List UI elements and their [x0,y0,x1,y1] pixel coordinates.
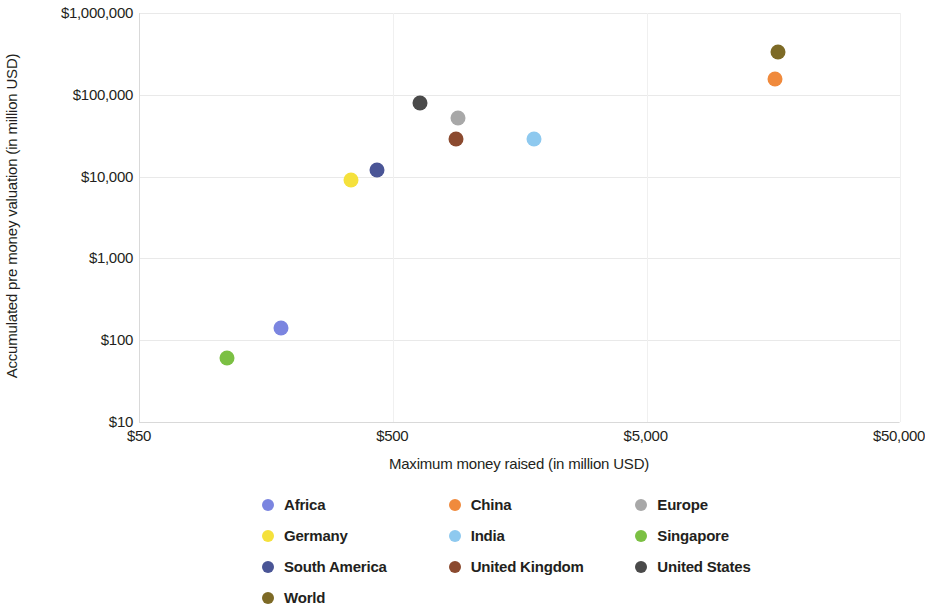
data-point[interactable] [273,321,288,336]
x-axis-tick-label: $5,000 [624,427,668,444]
legend-swatch-icon [449,499,461,511]
legend-swatch-icon [635,561,647,573]
chart-legend: AfricaChinaEuropeGermanyIndiaSingaporeSo… [262,489,822,604]
legend-row: South AmericaUnited KingdomUnited States [262,551,822,582]
y-axis-tick-label: $100,000 [9,86,139,103]
x-gridline [647,13,648,422]
legend-label: Europe [657,496,707,513]
y-gridline [140,13,900,14]
x-axis-tick-label: $50,000 [873,427,925,444]
legend-label: Germany [284,527,348,544]
legend-item-africa[interactable]: Africa [262,489,449,520]
legend-label: India [471,527,505,544]
y-axis-tick-label: $1,000,000 [9,4,139,21]
x-axis-tick-label: $50 [127,427,151,444]
data-point[interactable] [343,173,358,188]
y-axis-tick-label: $10 [9,413,139,430]
legend-swatch-icon [262,530,274,542]
data-point[interactable] [767,72,782,87]
y-gridline [140,95,900,96]
legend-item-india[interactable]: India [449,520,636,551]
x-gridline [900,13,901,422]
legend-label: China [471,496,512,513]
x-axis-title: Maximum money raised (in million USD) [139,455,899,472]
legend-item-united-kingdom[interactable]: United Kingdom [449,551,636,582]
legend-item-china[interactable]: China [449,489,636,520]
legend-label: United Kingdom [471,558,584,575]
legend-swatch-icon [635,499,647,511]
data-point[interactable] [448,131,463,146]
legend-item-south-america[interactable]: South America [262,551,449,582]
legend-label: South America [284,558,387,575]
legend-row: AfricaChinaEurope [262,489,822,520]
legend-label: Africa [284,496,325,513]
x-axis-line [139,422,899,423]
data-point[interactable] [413,95,428,110]
data-point[interactable] [369,163,384,178]
y-gridline [140,340,900,341]
legend-item-europe[interactable]: Europe [635,489,822,520]
legend-swatch-icon [449,561,461,573]
y-gridline [140,177,900,178]
legend-row: GermanyIndiaSingapore [262,520,822,551]
x-axis-tick-label: $500 [376,427,408,444]
legend-swatch-icon [449,530,461,542]
y-axis-tick-label: $100 [9,331,139,348]
legend-item-united-states[interactable]: United States [635,551,822,582]
legend-label: Singapore [657,527,729,544]
legend-swatch-icon [262,561,274,573]
y-axis-tick-label: $1,000 [9,249,139,266]
legend-label: World [284,589,325,604]
y-gridline [140,258,900,259]
legend-item-world[interactable]: World [262,582,459,604]
legend-swatch-icon [635,530,647,542]
data-point[interactable] [527,131,542,146]
legend-item-singapore[interactable]: Singapore [635,520,822,551]
x-gridline [393,13,394,422]
legend-row: World [262,582,822,604]
y-axis-tick-label: $10,000 [9,168,139,185]
legend-swatch-icon [262,592,274,604]
data-point[interactable] [451,111,466,126]
legend-item-germany[interactable]: Germany [262,520,449,551]
data-point[interactable] [771,45,786,60]
data-point[interactable] [219,351,234,366]
y-axis-title: Accumulated pre money valuation (in mill… [0,0,24,436]
legend-swatch-icon [262,499,274,511]
plot-area [139,13,899,422]
legend-label: United States [657,558,750,575]
